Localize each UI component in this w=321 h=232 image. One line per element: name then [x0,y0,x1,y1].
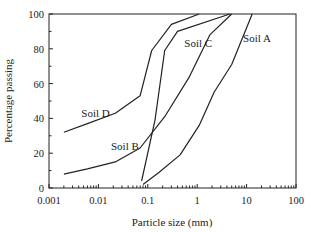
y-tick-label: 40 [34,113,45,124]
x-tick-label: 0.01 [89,195,107,206]
x-tick-label: 100 [288,195,304,206]
label-soil-c: Soil C [184,37,212,49]
series-lines [64,14,252,185]
label-soil-a: Soil A [243,32,271,44]
label-soil-d: Soil D [81,107,109,119]
series-labels: Soil ASoil BSoil CSoil D [81,32,271,152]
x-tick-label: 10 [241,195,252,206]
x-axis-title: Particle size (mm) [132,216,213,229]
y-tick-label: 60 [34,79,45,90]
y-tick-label: 80 [34,44,45,55]
grading-curves-chart: 020406080100 0.0010.010.1110100 Soil ASo… [0,0,321,232]
y-axis-title: Percentage passing [2,59,14,143]
y-tick-label: 100 [28,9,44,20]
y-tick-label: 0 [39,183,44,194]
y-tick-label: 20 [34,148,45,159]
label-soil-b: Soil B [111,140,139,152]
x-tick-label: 0.1 [141,195,154,206]
x-tick-label: 1 [195,195,200,206]
x-tick-label: 0.001 [37,195,61,206]
x-axis: 0.0010.010.1110100 [37,184,304,206]
